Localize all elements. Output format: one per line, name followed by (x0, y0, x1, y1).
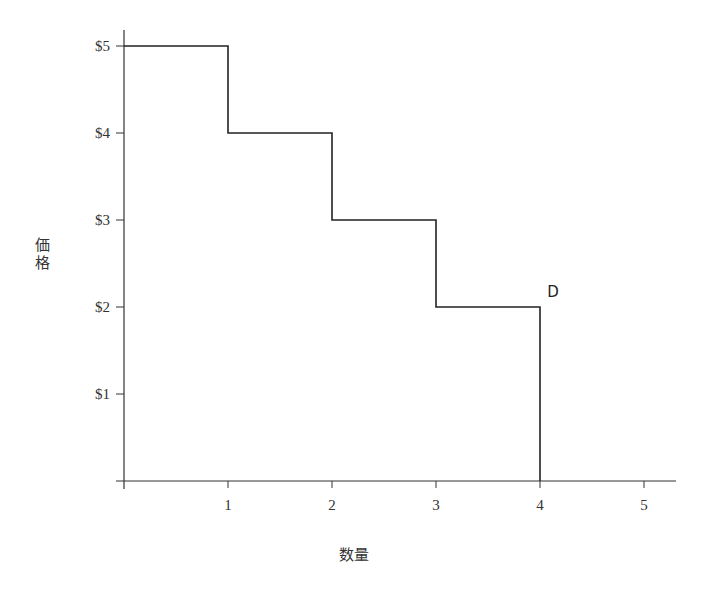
y-tick-label: $2 (95, 299, 110, 315)
y-tick-label: $4 (95, 125, 111, 141)
x-tick-label: 5 (640, 497, 648, 513)
x-tick-label: 1 (224, 497, 232, 513)
y-tick-label: $1 (95, 386, 110, 402)
ticks (116, 46, 644, 488)
demand-step-chart: 12345$1$2$3$4$5D数量価格 (0, 0, 707, 592)
axes (116, 30, 676, 489)
labels: 12345$1$2$3$4$5D数量価格 (35, 38, 648, 564)
x-tick-label: 3 (432, 497, 440, 513)
x-tick-label: 4 (536, 497, 544, 513)
x-tick-label: 2 (328, 497, 336, 513)
y-axis-title-char: 格 (35, 254, 50, 272)
x-axis-title: 数量 (339, 546, 369, 564)
demand-step-line (124, 46, 540, 481)
y-axis-title-char: 価 (35, 236, 50, 254)
demand-curve-label: D (547, 283, 559, 301)
series (124, 46, 540, 481)
y-tick-label: $5 (95, 38, 110, 54)
y-tick-label: $3 (95, 212, 110, 228)
